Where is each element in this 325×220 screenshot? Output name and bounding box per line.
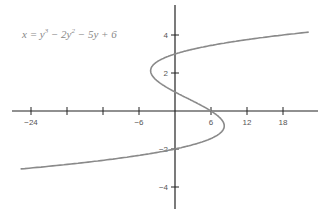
x-tick-label: 6 (209, 118, 214, 127)
y-tick-label: −2 (159, 145, 169, 154)
plot-area: −24−66121842−2−4 (0, 0, 325, 220)
x-tick-label: 12 (243, 118, 252, 127)
x-tick-label: −6 (134, 118, 144, 127)
x-tick-label: 18 (279, 118, 288, 127)
y-tick-label: −4 (159, 183, 169, 192)
x-tick-label: −24 (24, 118, 38, 127)
y-tick-label: 2 (164, 69, 169, 78)
y-tick-label: 4 (164, 31, 169, 40)
